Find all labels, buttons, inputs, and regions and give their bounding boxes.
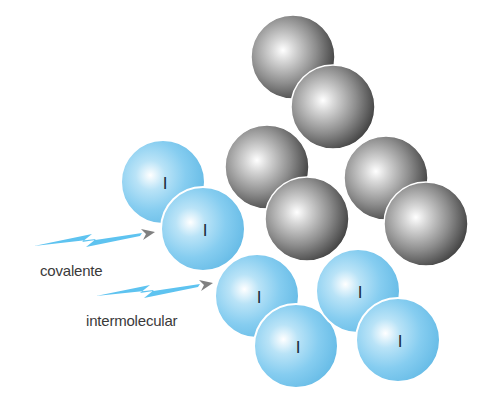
- iodine-symbol: I: [358, 283, 363, 302]
- gray-molecules: [225, 15, 468, 266]
- intermolecular-arrow: [96, 280, 213, 298]
- iodine-atom: I: [356, 298, 440, 382]
- arrowhead-icon: [141, 229, 155, 240]
- gray-atom-sphere: [265, 177, 349, 261]
- gray-atom-sphere: [384, 182, 468, 266]
- covalent-arrow: [34, 229, 155, 247]
- iodine-symbol: I: [296, 338, 301, 357]
- gray-atom-sphere: [291, 65, 375, 149]
- intermolecular-label: intermolecular: [86, 312, 177, 329]
- iodine-bonding-diagram: IIIIII covalente intermolecular: [0, 0, 495, 420]
- iodine-symbol: I: [257, 288, 262, 307]
- covalent-label: covalente: [40, 262, 102, 279]
- lightning-bolt-icon: [34, 233, 142, 247]
- lightning-bolt-icon: [96, 284, 200, 298]
- iodine-atom: I: [161, 187, 245, 271]
- iodine-symbol: I: [203, 221, 208, 240]
- iodine-symbol: I: [163, 174, 168, 193]
- iodine-symbol: I: [398, 332, 403, 351]
- molecule-illustration: IIIIII: [0, 0, 495, 420]
- arrowhead-icon: [199, 280, 213, 291]
